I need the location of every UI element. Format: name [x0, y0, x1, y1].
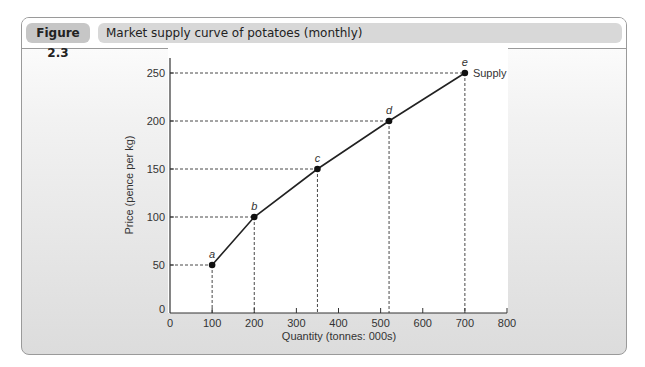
- point-label: d: [386, 104, 393, 116]
- x-tick-label: 100: [203, 317, 221, 329]
- x-tick-label: 200: [245, 317, 263, 329]
- y-tick-label: 250: [147, 67, 165, 79]
- x-tick-label: 500: [371, 317, 389, 329]
- x-tick-label: 600: [414, 317, 432, 329]
- data-point-a: [209, 262, 216, 269]
- y-tick-label: 100: [147, 211, 165, 223]
- point-label: b: [251, 200, 257, 212]
- y-axis-label: Price (pence per kg): [123, 135, 135, 234]
- x-tick-label: 300: [287, 317, 305, 329]
- point-label: e: [462, 56, 468, 68]
- x-tick-label: 400: [329, 317, 347, 329]
- y-tick-label: 50: [153, 259, 165, 271]
- x-tick-label: 0: [167, 317, 173, 329]
- series-label: Supply: [473, 67, 507, 79]
- point-label: c: [315, 152, 321, 164]
- data-point-b: [251, 214, 258, 221]
- y-tick-label: 150: [147, 163, 165, 175]
- x-tick-label: 700: [456, 317, 474, 329]
- x-axis-label: Quantity (tonnes: 000s): [282, 330, 396, 342]
- y-tick-label: 0: [159, 303, 165, 315]
- x-tick-label: 800: [498, 317, 516, 329]
- y-tick-label: 200: [147, 115, 165, 127]
- plot-area: [168, 48, 508, 313]
- data-point-d: [386, 118, 393, 125]
- supply-chart: 0100200300400500600700800050100150200250…: [0, 0, 645, 367]
- data-point-e: [462, 70, 469, 77]
- data-point-c: [314, 166, 321, 173]
- point-label: a: [209, 248, 215, 260]
